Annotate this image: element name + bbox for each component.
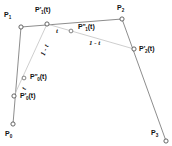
figure-canvas	[0, 0, 172, 146]
label-p2-prime: P'2(t)	[139, 45, 155, 53]
marker-p0-double-prime	[22, 76, 26, 80]
label-p2: P2	[117, 4, 124, 12]
label-p1-double-prime: P''1(t)	[78, 23, 95, 31]
label-p0-prime: P'0(t)	[20, 92, 36, 100]
marker-p1-double-prime	[69, 29, 73, 33]
marker-p3	[164, 139, 168, 143]
edge-p0-p1	[13, 27, 21, 124]
label-p0: P0	[5, 130, 12, 138]
marker-p2	[120, 17, 124, 21]
label-parameter-t-upper: t	[56, 27, 58, 35]
label-p3: P3	[151, 129, 158, 137]
marker-p0-prime	[12, 94, 16, 98]
marker-p1	[19, 25, 23, 29]
chord-p0prime-p1prime	[14, 24, 47, 96]
first-level-chords	[14, 24, 134, 96]
label-p1-prime: P'1(t)	[35, 6, 51, 14]
label-parameter-one-minus-t-right: 1 - t	[89, 39, 100, 47]
marker-p1-prime	[45, 22, 49, 26]
edge-p1-p2	[21, 19, 122, 27]
marker-p2-prime	[132, 47, 136, 51]
marker-p0	[11, 122, 15, 126]
label-p1: P1	[4, 11, 11, 19]
edge-p2-p3	[122, 19, 166, 141]
bezier-de-casteljau-figure: P1 P2 P0 P3 P'1(t) P'2(t) P'0(t) P''1(t)…	[0, 0, 172, 146]
label-p0-double-prime: P''0(t)	[30, 73, 47, 81]
